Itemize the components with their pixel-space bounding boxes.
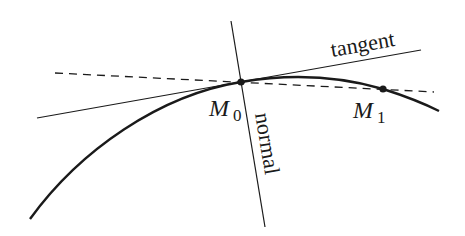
m0-label-sub: 0 — [233, 106, 242, 125]
tangent-normal-diagram: tangent normal M 0 M 1 — [0, 0, 465, 236]
m1-label-main: M — [352, 97, 375, 123]
m0-label-main: M — [208, 95, 231, 121]
point-m0 — [237, 78, 244, 85]
m1-label-sub: 1 — [377, 108, 386, 127]
curve — [30, 77, 439, 219]
m0-label: M 0 — [208, 95, 242, 125]
m1-label: M 1 — [352, 97, 386, 127]
point-m1 — [379, 85, 386, 92]
